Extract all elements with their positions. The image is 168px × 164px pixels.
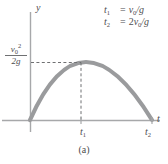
- annotation-t2: t2=2v0/g: [104, 16, 149, 28]
- apex-height-denominator: 2g: [3, 56, 29, 66]
- figure-caption: (a): [0, 144, 168, 155]
- annotation-t2-rhs-tail: /g: [141, 16, 149, 27]
- annotation-t2-sub: 2: [107, 21, 110, 28]
- t1-tick-label: t1: [80, 126, 86, 137]
- annotation-t1-rhs-tail: /g: [136, 4, 144, 15]
- t2-tick-label-sub: 2: [148, 131, 151, 138]
- formula-annotations: t1=v0/g t2=2v0/g: [104, 4, 149, 28]
- annotation-t2-rhs-sub: 0: [138, 21, 141, 28]
- t-axis-label: t: [157, 113, 160, 124]
- annotation-t1-equals: =: [117, 4, 129, 16]
- y-axis-label: y: [36, 2, 40, 13]
- t2-tick-label: t2: [145, 126, 151, 137]
- trajectory-curve: [30, 62, 152, 120]
- annotation-t1-sub: 1: [107, 9, 110, 16]
- apex-height-numerator: v02: [3, 44, 29, 55]
- projectile-height-time-figure: y t v02 2g t1 t2 t1=v0/g t2=2v0/g (a): [0, 0, 168, 164]
- annotation-t2-equals: =: [117, 16, 129, 28]
- annotation-t1: t1=v0/g: [104, 4, 149, 16]
- t1-tick-label-sub: 1: [83, 131, 86, 138]
- apex-height-value-label: v02 2g: [3, 44, 29, 66]
- annotation-t1-rhs-sub: 0: [133, 9, 136, 16]
- annotation-t2-lhs: t2: [104, 16, 117, 29]
- apex-height-numerator-sup: 2: [18, 42, 21, 49]
- apex-height-numerator-sub: 0: [15, 48, 18, 55]
